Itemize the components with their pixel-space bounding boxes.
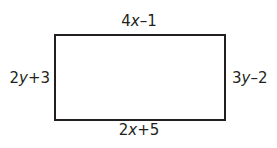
left-side-label: 2y+3	[9, 69, 50, 87]
top-side-label: 4x–1	[121, 12, 156, 30]
right-side-label: 3y–2	[232, 69, 267, 87]
rectangle-shape	[54, 34, 226, 121]
bottom-side-label: 2x+5	[119, 121, 160, 139]
